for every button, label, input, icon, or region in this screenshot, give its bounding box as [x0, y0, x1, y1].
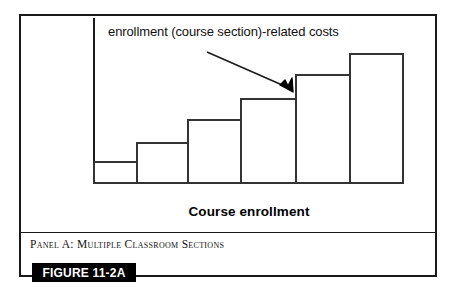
panel-caption-divider	[21, 232, 435, 233]
annotation-label: enrollment (course section)-related cost…	[108, 24, 339, 39]
figure-number-bar: FIGURE 11-2A	[32, 263, 136, 282]
x-axis-label: Course enrollment	[94, 204, 404, 219]
figure-number-label: FIGURE 11-2A	[42, 266, 125, 280]
panel-caption: Panel A: Multiple Classroom Sections	[30, 238, 224, 250]
figure-container: Total direct cost Course enrollment enro…	[0, 0, 456, 295]
